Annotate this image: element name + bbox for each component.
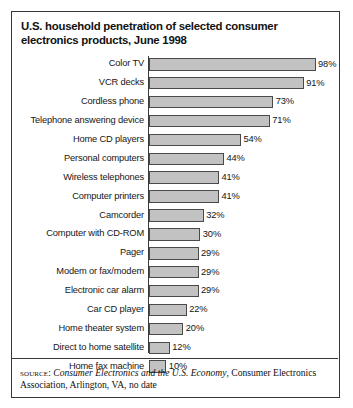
bar-category-label: Camcorder [0, 210, 144, 221]
divider [12, 358, 338, 359]
bar-row: Electronic car alarm29% [12, 283, 338, 302]
bar-value-label: 29% [201, 248, 219, 259]
bar-row: Color TV98% [12, 56, 338, 75]
bar-row: Car CD player22% [12, 302, 338, 321]
bar-value-label: 71% [272, 115, 290, 126]
bar-row: Home theater system20% [12, 321, 338, 340]
bar-value-label: 73% [276, 96, 294, 107]
bar-category-label: Electronic car alarm [0, 285, 144, 296]
bar [149, 190, 218, 203]
figure-page: FIGURE 4.2 U.S. household penetration of… [0, 0, 353, 408]
source-note: source: Consumer Electronics and the U.S… [20, 367, 330, 392]
bar-row: Home CD players54% [12, 132, 338, 151]
bar [149, 153, 224, 166]
bar [149, 228, 200, 241]
bar [149, 209, 203, 222]
bar [149, 285, 198, 298]
bar-value-label: 98% [318, 59, 336, 70]
bar-category-label: Direct to home satellite [0, 342, 144, 353]
bar [149, 115, 269, 128]
bar-value-label: 29% [201, 267, 219, 278]
bar-category-label: Wireless telephones [0, 172, 144, 183]
figure-frame: U.S. household penetration of selected c… [11, 11, 340, 398]
bar-row: Camcorder32% [12, 207, 338, 226]
bar [149, 266, 198, 279]
bar [149, 342, 169, 355]
bar-category-label: Color TV [0, 58, 144, 69]
bar-row: Computer printers41% [12, 188, 338, 207]
bar-category-label: Home theater system [0, 323, 144, 334]
bar-row: Cordless phone73% [12, 94, 338, 113]
bar [149, 304, 186, 317]
bar-value-label: 41% [221, 172, 239, 183]
bar-row: Computer with CD-ROM30% [12, 226, 338, 245]
bar-value-label: 41% [221, 191, 239, 202]
bar-value-label: 32% [206, 210, 224, 221]
bar [149, 323, 183, 336]
bar-row: Personal computers44% [12, 151, 338, 170]
bar-value-label: 30% [203, 229, 221, 240]
bar [149, 247, 198, 260]
bar-chart: Color TV98%VCR decks91%Cordless phone73%… [12, 56, 338, 356]
bar [149, 58, 315, 71]
bar-value-label: 54% [243, 134, 261, 145]
bar-value-label: 12% [172, 342, 190, 353]
bar-category-label: Car CD player [0, 304, 144, 315]
bar-row: VCR decks91% [12, 75, 338, 94]
bar [149, 171, 218, 184]
bar-category-label: VCR decks [0, 77, 144, 88]
bar-row: Wireless telephones41% [12, 169, 338, 188]
bar-row: Modem or fax/modem29% [12, 264, 338, 283]
bar-category-label: Cordless phone [0, 96, 144, 107]
bar-category-label: Personal computers [0, 153, 144, 164]
bar-category-label: Computer with CD-ROM [0, 228, 144, 239]
bar-value-label: 22% [189, 304, 207, 315]
bar-row: Pager29% [12, 245, 338, 264]
bar-row: Telephone answering device71% [12, 113, 338, 132]
source-publication-title: Consumer Electronics and the U.S. Econom… [53, 367, 226, 378]
bar-row: Direct to home satellite12% [12, 340, 338, 359]
bar [149, 77, 303, 90]
bar [149, 96, 273, 109]
bar-category-label: Modem or fax/modem [0, 266, 144, 277]
bar-value-label: 91% [306, 78, 324, 89]
bar-category-label: Computer printers [0, 191, 144, 202]
page-title: U.S. household penetration of selected c… [21, 20, 331, 47]
bar-value-label: 44% [226, 153, 244, 164]
bar-category-label: Pager [0, 247, 144, 258]
bar-category-label: Telephone answering device [0, 115, 144, 126]
bar-value-label: 29% [201, 285, 219, 296]
bar-value-label: 20% [186, 323, 204, 334]
bar-category-label: Home CD players [0, 134, 144, 145]
bar [149, 134, 241, 147]
source-label: source: [20, 368, 51, 378]
